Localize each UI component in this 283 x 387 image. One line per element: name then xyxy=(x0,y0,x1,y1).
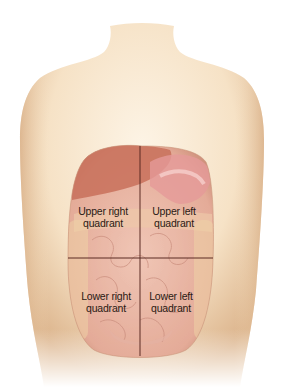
label-line: quadrant xyxy=(134,217,214,229)
label-line: Lower left xyxy=(131,290,211,302)
label-lower-left-quadrant: Lower left quadrant xyxy=(131,290,211,314)
label-upper-left-quadrant: Upper left quadrant xyxy=(134,205,214,229)
label-line: Upper left xyxy=(134,205,214,217)
label-line: quadrant xyxy=(131,302,211,314)
label-line: Upper right xyxy=(63,205,143,217)
abdomen-quadrant-diagram xyxy=(0,0,283,387)
label-line: quadrant xyxy=(63,217,143,229)
label-upper-right-quadrant: Upper right quadrant xyxy=(63,205,143,229)
